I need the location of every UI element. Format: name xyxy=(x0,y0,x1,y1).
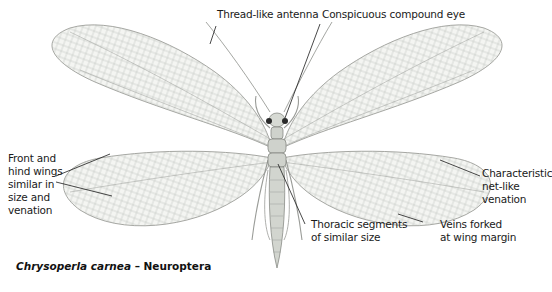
label-wings: Front and hind wings similar in size and… xyxy=(8,152,63,217)
front-wing-left xyxy=(52,25,272,148)
hind-wing-right xyxy=(282,151,491,226)
label-venation: Characteristic net-like venation xyxy=(482,167,552,206)
leader-antenna xyxy=(210,26,216,44)
order-name: Neuroptera xyxy=(144,260,212,272)
front-wing-right xyxy=(282,25,502,148)
label-thorax: Thoracic segments of similar size xyxy=(311,218,407,244)
body xyxy=(266,113,288,268)
abdomen xyxy=(269,167,284,268)
caption-separator: – xyxy=(131,260,144,272)
label-veins: Veins forked at wing margin xyxy=(440,218,516,244)
metathorax xyxy=(268,153,286,167)
label-compound-eye: Conspicuous compound eye xyxy=(322,8,465,21)
hind-wing-left xyxy=(63,151,272,226)
species-caption: Chrysoperla carnea – Neuroptera xyxy=(16,260,211,272)
compound-eye-right xyxy=(282,118,288,124)
prothorax xyxy=(271,127,283,139)
compound-eye-left xyxy=(266,118,272,124)
label-antenna: Thread-like antenna xyxy=(217,8,318,21)
species-name: Chrysoperla carnea xyxy=(16,260,131,272)
mesothorax xyxy=(268,139,286,153)
